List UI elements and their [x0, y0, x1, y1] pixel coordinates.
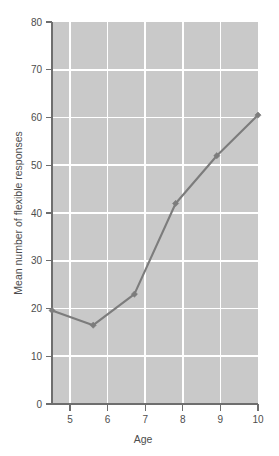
y-axis-ticks: [46, 22, 52, 404]
y-tick-label: 0: [36, 399, 42, 410]
y-tick-label: 80: [31, 17, 43, 28]
y-tick-label: 60: [31, 112, 43, 123]
y-axis-title: Mean number of flexible responses: [12, 131, 24, 294]
y-tick-label: 40: [31, 208, 43, 219]
y-tick-label: 30: [31, 255, 43, 266]
line-chart: 0 10 20 30 40 50 60 70 80 5 6 7 8 9 10 A…: [0, 0, 279, 456]
y-axis-tick-labels: 0 10 20 30 40 50 60 70 80: [31, 17, 43, 410]
x-tick-label: 10: [252, 414, 264, 425]
y-tick-label: 70: [31, 64, 43, 75]
y-tick-label: 10: [31, 351, 43, 362]
x-tick-label: 5: [67, 414, 73, 425]
x-axis-title: Age: [134, 433, 153, 445]
x-tick-label: 9: [218, 414, 224, 425]
y-tick-label: 50: [31, 160, 43, 171]
x-tick-label: 6: [105, 414, 111, 425]
x-axis-ticks: [70, 404, 258, 411]
x-tick-label: 7: [142, 414, 148, 425]
y-tick-label: 20: [31, 303, 43, 314]
x-axis-tick-labels: 5 6 7 8 9 10: [67, 414, 264, 425]
x-tick-label: 8: [180, 414, 186, 425]
chart-container: 0 10 20 30 40 50 60 70 80 5 6 7 8 9 10 A…: [0, 0, 279, 456]
